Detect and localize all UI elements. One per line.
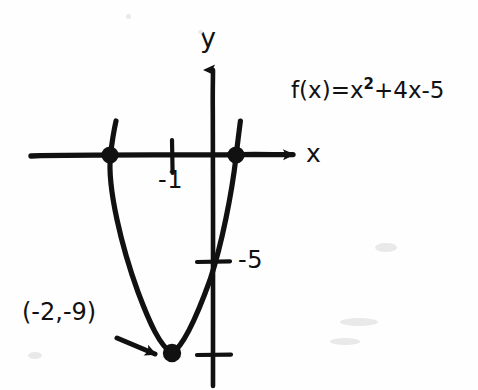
- x-axis-label: x: [306, 141, 321, 166]
- root-right-dot: [227, 146, 244, 163]
- equation-label: f(x)=x2+4x-5: [291, 79, 444, 102]
- vertex-coordinate-label: (-2,-9): [22, 300, 96, 324]
- x-tick-label-minus1: -1: [158, 168, 183, 192]
- y-tick-label-minus5: -5: [238, 248, 263, 272]
- vertex-dot: [163, 344, 181, 362]
- equation-prefix: f(x)=x: [291, 77, 364, 103]
- root-left-dot: [101, 146, 118, 163]
- graph-canvas: [0, 0, 478, 390]
- y-axis-label: y: [200, 24, 216, 51]
- x-axis: [31, 155, 293, 156]
- vertex-callout-arrow: [117, 338, 155, 354]
- equation-exponent: 2: [364, 75, 374, 93]
- parabola-figure: y x f(x)=x2+4x-5 -1 -5 (-2,-9): [0, 0, 478, 390]
- equation-suffix: +4x-5: [374, 77, 444, 103]
